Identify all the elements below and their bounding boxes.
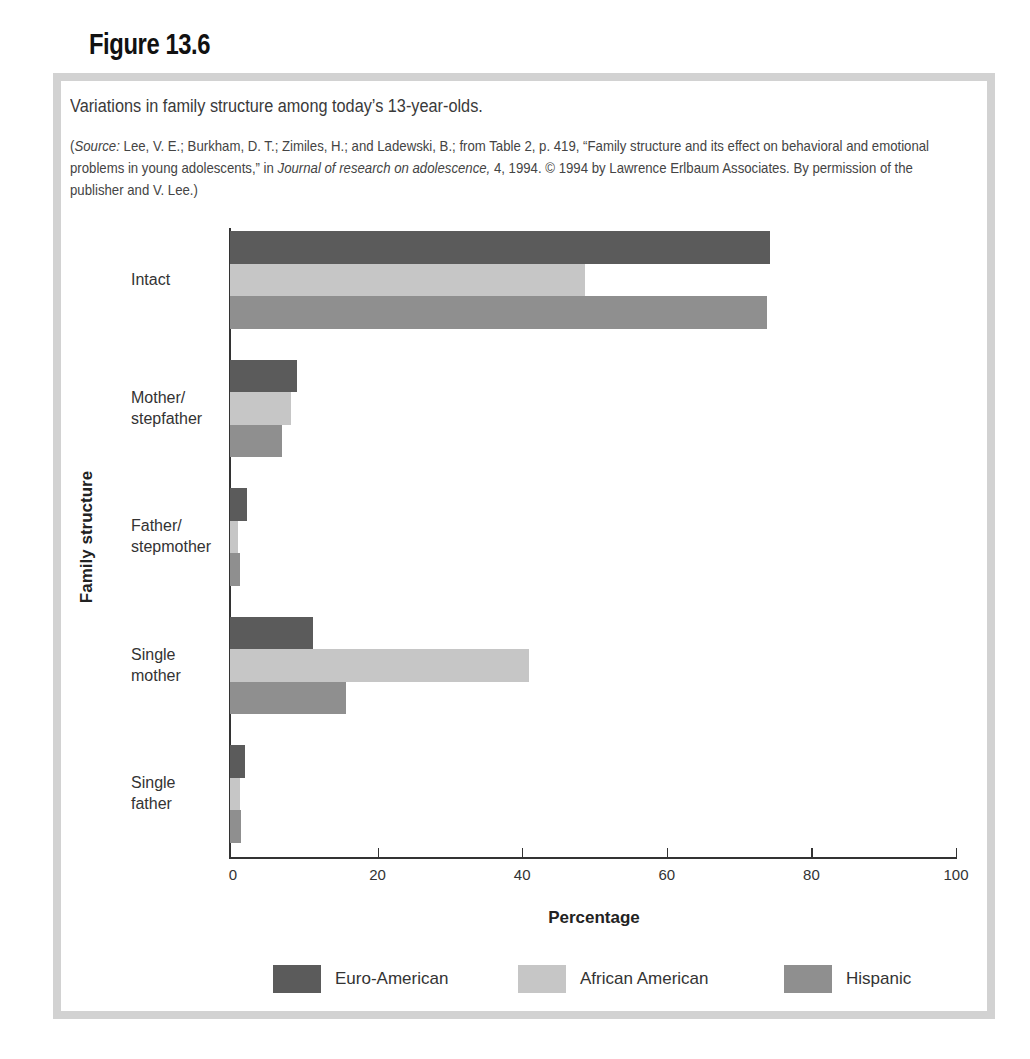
bar-single-mother-hispanic [230, 682, 346, 715]
category-label-line: stepmother [131, 536, 211, 557]
category-label-mother-stepfather: Mother/stepfather [131, 387, 202, 429]
bar-intact-african-american [230, 264, 585, 297]
x-tick-label: 100 [943, 866, 968, 883]
x-tick-label: 40 [514, 866, 531, 883]
category-label-line: mother [131, 665, 181, 686]
source-journal: Journal of research on adolescence, [278, 160, 491, 176]
source-label: Source: [74, 138, 119, 154]
bar-single-father-hispanic [230, 810, 241, 843]
category-label-intact: Intact [131, 269, 170, 290]
category-label-line: Intact [131, 269, 170, 290]
figure-caption: Variations in family structure among tod… [70, 96, 483, 117]
category-label-line: father [131, 793, 175, 814]
category-label-line: stepfather [131, 408, 202, 429]
bar-intact-euro-american [230, 231, 770, 264]
bar-father-stepmother-euro-american [230, 488, 247, 521]
bar-intact-hispanic [230, 296, 767, 329]
bar-single-mother-euro-american [230, 617, 313, 650]
bar-single-mother-african-american [230, 649, 529, 682]
bar-father-stepmother-african-american [230, 521, 238, 554]
x-tick [811, 848, 812, 858]
bar-mother-stepfather-hispanic [230, 425, 282, 458]
x-tick-label: 80 [803, 866, 820, 883]
x-tick-label: 60 [658, 866, 675, 883]
category-label-line: Single [131, 772, 175, 793]
x-tick [522, 848, 523, 858]
legend-label: Hispanic [846, 969, 911, 989]
figure-label: Figure 13.6 [89, 28, 210, 61]
legend-label: Euro-American [335, 969, 448, 989]
category-label-single-father: Singlefather [131, 772, 175, 814]
category-label-single-mother: Singlemother [131, 644, 181, 686]
x-tick [956, 848, 957, 858]
legend-item-euro-american: Euro-American [273, 965, 448, 993]
legend-swatch-euro-american [273, 965, 321, 993]
category-label-line: Single [131, 644, 181, 665]
legend-swatch-hispanic [784, 965, 832, 993]
category-label-line: Father/ [131, 515, 211, 536]
legend-item-african-american: African American [518, 965, 709, 993]
bar-single-father-african-american [230, 778, 240, 811]
x-tick-label: 0 [229, 866, 237, 883]
legend-label: African American [580, 969, 709, 989]
x-tick [378, 848, 379, 858]
x-tick-label: 20 [369, 866, 386, 883]
source-citation: (Source: Lee, V. E.; Burkham, D. T.; Zim… [70, 135, 963, 201]
x-axis-line [230, 857, 957, 859]
bar-mother-stepfather-african-american [230, 392, 291, 425]
category-label-father-stepmother: Father/stepmother [131, 515, 211, 557]
x-tick [667, 848, 668, 858]
legend-item-hispanic: Hispanic [784, 965, 911, 993]
legend-swatch-african-american [518, 965, 566, 993]
y-axis-title: Family structure [77, 471, 97, 603]
bar-father-stepmother-hispanic [230, 553, 240, 586]
bar-mother-stepfather-euro-american [230, 360, 297, 393]
x-axis-title: Percentage [548, 908, 640, 928]
category-label-line: Mother/ [131, 387, 202, 408]
bar-single-father-euro-american [230, 745, 245, 778]
